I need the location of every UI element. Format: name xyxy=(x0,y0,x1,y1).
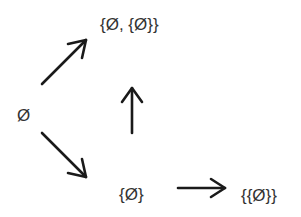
node-pair-set: {Ø, {Ø}} xyxy=(100,15,159,35)
node-singleton-of-singleton-set: {{Ø}} xyxy=(241,186,277,206)
arrow-singleton-to-pair xyxy=(122,88,142,133)
arrow-singleton-to-singleton-of-singleton xyxy=(178,179,225,197)
arrow-empty-to-singleton xyxy=(42,133,86,177)
arrow-empty-to-pair xyxy=(42,40,86,84)
node-singleton-set: {Ø} xyxy=(119,185,144,205)
node-empty-set: Ø xyxy=(17,106,30,126)
